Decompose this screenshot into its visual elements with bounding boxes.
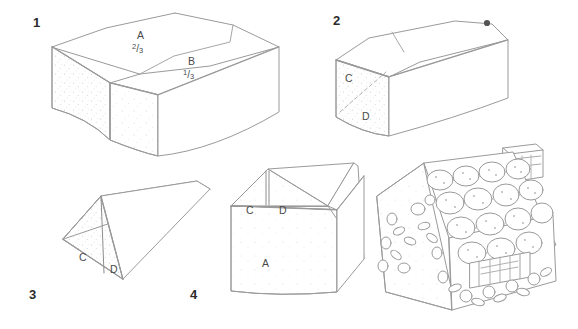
step-1-label-a: A <box>137 30 144 41</box>
step-1-fraction-b: 1/3 <box>183 69 194 80</box>
line-drawing-layer <box>0 0 578 329</box>
step-3-drawing <box>63 181 210 279</box>
cut-point-marker <box>484 20 490 26</box>
step-number-4: 4 <box>190 288 197 301</box>
step-1-drawing <box>52 13 279 156</box>
step-number-1: 1 <box>33 16 40 29</box>
step-number-3: 3 <box>29 288 36 301</box>
finished-house-drawing <box>377 144 556 318</box>
step-3-label-d: D <box>110 264 118 275</box>
step-1-fraction-a: 2/3 <box>132 43 143 54</box>
step-3-label-c: C <box>79 252 87 263</box>
diagram-canvas: 1 2 3 4 A 2/3 B 1/3 C D C D C D A <box>0 0 578 329</box>
step-4-label-d: D <box>279 205 287 216</box>
fraction-denominator: 3 <box>139 46 143 55</box>
step-4-label-c: C <box>246 205 254 216</box>
step-2-label-c: C <box>345 73 353 84</box>
step-4-drawing <box>231 163 364 294</box>
step-4-label-a: A <box>262 258 269 269</box>
step-1-label-b: B <box>188 56 195 67</box>
step-number-2: 2 <box>333 14 340 27</box>
step-2-label-d: D <box>362 111 370 122</box>
fraction-denominator: 3 <box>190 72 194 81</box>
